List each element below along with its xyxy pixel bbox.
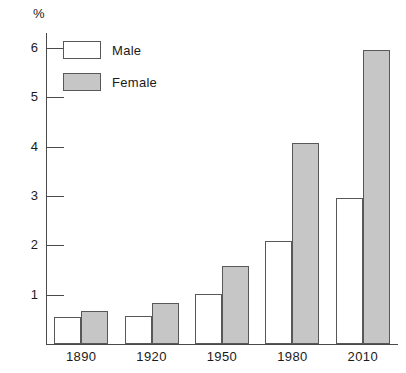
y-tick-label-6: 6 — [0, 40, 38, 55]
bar-female-1950 — [222, 266, 249, 344]
bar-female-2010 — [363, 50, 390, 344]
bar-male-2010 — [336, 198, 363, 344]
legend: Male Female — [63, 41, 157, 105]
y-tick-label-1: 1 — [0, 287, 38, 302]
y-tick-label-4: 4 — [0, 139, 38, 154]
bar-male-1890 — [54, 317, 81, 344]
legend-label-male: Male — [112, 43, 141, 58]
x-tick-label-1950: 1950 — [182, 349, 262, 364]
white-square-icon — [63, 41, 101, 59]
gray-square-icon — [63, 73, 101, 91]
legend-label-female: Female — [112, 75, 157, 90]
y-tick-label-2: 2 — [0, 237, 38, 252]
y-axis-unit-label: % — [33, 6, 45, 21]
bar-female-1920 — [152, 303, 179, 344]
x-tick-label-1920: 1920 — [112, 349, 192, 364]
x-tick-label-2010: 2010 — [323, 349, 403, 364]
bar-male-1920 — [125, 316, 152, 344]
bar-female-1890 — [81, 311, 108, 344]
bar-male-1980 — [265, 241, 292, 344]
bar-male-1950 — [195, 294, 222, 344]
y-tick-label-3: 3 — [0, 188, 38, 203]
bar-female-1980 — [292, 143, 319, 344]
x-tick-label-1890: 1890 — [41, 349, 121, 364]
y-tick-label-5: 5 — [0, 89, 38, 104]
bar-chart: % 123456 18901920195019802010 Male Femal… — [0, 0, 406, 373]
legend-item-male: Male — [63, 41, 157, 59]
x-axis-line — [46, 344, 398, 345]
x-tick-label-1980: 1980 — [252, 349, 332, 364]
legend-item-female: Female — [63, 73, 157, 91]
